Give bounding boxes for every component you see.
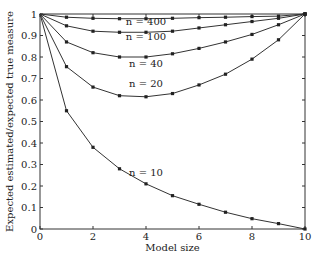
data-point-marker xyxy=(91,86,94,89)
data-point-marker xyxy=(171,194,174,197)
series-line-40 xyxy=(40,14,305,57)
y-tick-label: 0.4 xyxy=(21,138,37,149)
y-tick-label: 0.9 xyxy=(21,30,37,41)
data-point-marker xyxy=(277,38,280,41)
data-point-marker xyxy=(65,65,68,68)
data-point-marker xyxy=(224,40,227,43)
data-point-marker xyxy=(144,182,147,185)
data-point-marker xyxy=(303,12,306,15)
y-tick-label: 0.3 xyxy=(21,159,37,170)
data-point-marker xyxy=(250,15,253,18)
data-point-marker xyxy=(118,55,121,58)
y-tick-label: 0.2 xyxy=(21,181,37,192)
data-point-marker xyxy=(118,94,121,97)
series-line-20 xyxy=(40,14,305,97)
x-tick-label: 8 xyxy=(249,231,255,242)
y-tick-label: 0.1 xyxy=(21,202,37,213)
data-point-marker xyxy=(277,222,280,225)
axes: 00.10.20.30.40.50.60.70.80.910246810 xyxy=(21,9,311,243)
data-point-marker xyxy=(250,33,253,36)
data-point-marker xyxy=(118,167,121,170)
data-point-marker xyxy=(277,23,280,26)
data-point-marker xyxy=(91,51,94,54)
series-label: n = 40 xyxy=(129,58,163,69)
data-point-marker xyxy=(171,52,174,55)
series-label: n = 400 xyxy=(126,16,166,27)
x-tick-label: 4 xyxy=(143,231,149,242)
y-tick-label: 1 xyxy=(31,9,37,20)
data-point-marker xyxy=(171,92,174,95)
data-point-marker xyxy=(303,227,306,230)
x-tick-label: 2 xyxy=(90,231,96,242)
series-label: n = 20 xyxy=(129,78,163,89)
data-point-marker xyxy=(171,17,174,20)
series-label: n = 100 xyxy=(126,31,166,42)
data-point-marker xyxy=(65,40,68,43)
data-point-marker xyxy=(91,146,94,149)
chart-canvas: 00.10.20.30.40.50.60.70.80.910246810 n =… xyxy=(0,0,325,257)
y-axis-label: Expected estimated/expected true measure xyxy=(4,11,15,232)
data-point-marker xyxy=(224,16,227,19)
data-point-marker xyxy=(91,30,94,33)
series-label: n = 10 xyxy=(129,167,163,178)
data-point-marker xyxy=(197,203,200,206)
data-point-marker xyxy=(171,30,174,33)
data-point-marker xyxy=(65,16,68,19)
data-point-marker xyxy=(277,17,280,20)
x-tick-label: 10 xyxy=(299,231,312,242)
data-point-marker xyxy=(197,26,200,29)
data-point-marker xyxy=(65,24,68,27)
data-point-marker xyxy=(118,17,121,20)
data-point-marker xyxy=(91,17,94,20)
x-axis-label: Model size xyxy=(145,242,200,253)
data-point-marker xyxy=(250,58,253,61)
series-lines xyxy=(40,12,307,230)
line-chart: 00.10.20.30.40.50.60.70.80.910246810 n =… xyxy=(0,0,325,257)
x-tick-label: 0 xyxy=(37,231,43,242)
data-point-marker xyxy=(197,47,200,50)
data-point-marker xyxy=(197,83,200,86)
data-point-marker xyxy=(250,20,253,23)
data-point-marker xyxy=(224,23,227,26)
data-point-marker xyxy=(118,31,121,34)
data-point-marker xyxy=(144,95,147,98)
data-point-marker xyxy=(250,217,253,220)
y-tick-label: 0.7 xyxy=(21,73,37,84)
data-point-marker xyxy=(197,16,200,19)
y-tick-label: 0.6 xyxy=(21,95,37,106)
x-tick-label: 6 xyxy=(196,231,202,242)
data-point-marker xyxy=(65,109,68,112)
data-point-marker xyxy=(224,211,227,214)
y-tick-label: 0.8 xyxy=(21,52,37,63)
data-point-marker xyxy=(224,73,227,76)
y-tick-label: 0.5 xyxy=(21,116,37,127)
